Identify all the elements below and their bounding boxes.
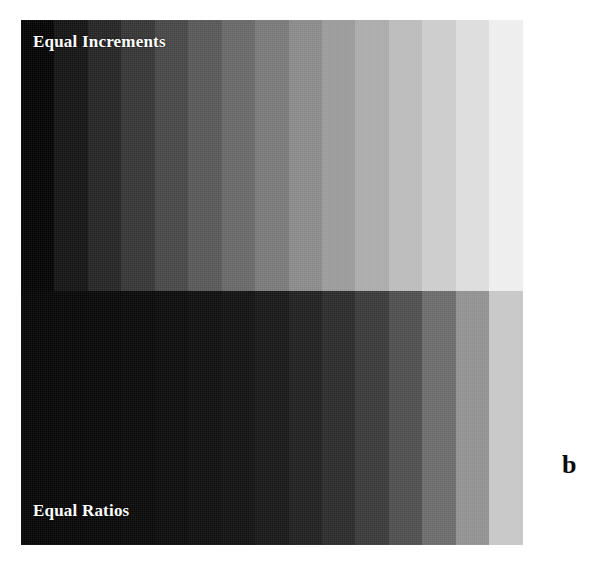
ramp-band (222, 291, 255, 545)
ramp-band (188, 20, 221, 291)
ramp-band (222, 20, 255, 291)
figure-panel-letter: b (562, 452, 576, 478)
ramp-band (255, 291, 288, 545)
ramp-band (389, 20, 422, 291)
ramp-band (422, 20, 455, 291)
ramp-band (523, 20, 556, 291)
ramp-band (322, 291, 355, 545)
ramp-band (88, 20, 121, 291)
ramp-band (155, 291, 188, 545)
ramp-band (289, 20, 322, 291)
ramp-band (389, 291, 422, 545)
ramp-band (523, 291, 556, 545)
ramp-band (422, 291, 455, 545)
grayscale-plate: Equal Increments Equal Ratios (21, 20, 556, 545)
ramp-band (322, 20, 355, 291)
figure-root: Equal Increments Equal Ratios b (0, 0, 590, 563)
ramp-band (121, 20, 154, 291)
ramp-band (188, 291, 221, 545)
label-equal-increments: Equal Increments (33, 32, 166, 52)
ramp-band (456, 291, 489, 545)
ramp-band (489, 291, 522, 545)
ramp-band (255, 20, 288, 291)
label-equal-ratios: Equal Ratios (33, 501, 129, 521)
ramp-band (54, 20, 87, 291)
ramp-band (489, 20, 522, 291)
ramp-band (355, 291, 388, 545)
ramp-band (289, 291, 322, 545)
ramp-band (21, 20, 54, 291)
ramp-equal-increments (21, 20, 556, 291)
ramp-band (155, 20, 188, 291)
ramp-band (355, 20, 388, 291)
ramp-band (456, 20, 489, 291)
